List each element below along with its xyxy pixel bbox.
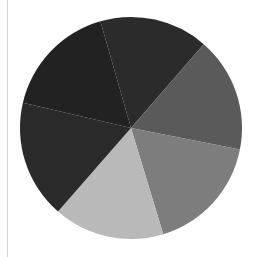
pie-chart xyxy=(0,0,255,257)
pie-slices xyxy=(20,17,242,239)
